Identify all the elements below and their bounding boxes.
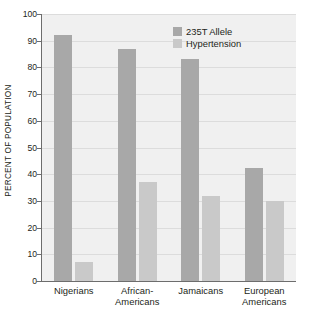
y-tick-label: 40 [27, 170, 37, 179]
x-category-label-line: European [242, 285, 286, 296]
x-category-label: EuropeanAmericans [242, 285, 286, 307]
y-tick-mark [37, 94, 42, 95]
gridline [42, 14, 296, 15]
gridline [42, 121, 296, 122]
legend-swatch-icon [173, 39, 182, 48]
y-tick-mark [37, 148, 42, 149]
bar [245, 168, 263, 281]
x-category-label: African-Americans [115, 285, 159, 307]
bar [75, 262, 93, 281]
y-tick-label: 60 [27, 117, 37, 126]
gridline [42, 148, 296, 149]
y-tick-mark [37, 14, 42, 15]
y-tick-mark [37, 254, 42, 255]
bar [181, 59, 199, 281]
y-tick-mark [37, 281, 42, 282]
bar [266, 201, 284, 281]
gridline [42, 67, 296, 68]
y-tick-label: 90 [27, 36, 37, 45]
bar [202, 196, 220, 281]
legend-item: 235T Allele [173, 27, 241, 37]
legend-item: Hypertension [173, 39, 241, 49]
y-tick-mark [37, 121, 42, 122]
y-tick-mark [37, 201, 42, 202]
x-axis-category-labels: NigeriansAfrican-AmericansJamaicansEurop… [42, 285, 296, 317]
y-tick-mark [37, 41, 42, 42]
y-tick-label: 80 [27, 63, 37, 72]
x-category-label-line: Jamaicans [178, 285, 223, 296]
chart-legend: 235T AlleleHypertension [173, 27, 241, 49]
gridline [42, 41, 296, 42]
x-category-label: Nigerians [54, 285, 94, 296]
legend-label: 235T Allele [186, 27, 232, 37]
y-tick-label: 100 [23, 10, 37, 19]
y-tick-label: 70 [27, 90, 37, 99]
x-category-label: Jamaicans [178, 285, 223, 296]
y-tick-label: 50 [27, 143, 37, 152]
bar [54, 35, 72, 281]
y-tick-label: 10 [27, 250, 37, 259]
y-tick-label: 30 [27, 197, 37, 206]
y-tick-mark [37, 67, 42, 68]
y-tick-mark [37, 174, 42, 175]
y-axis-title-text: PERCENT OF POPULATION [4, 84, 13, 196]
bar [139, 182, 157, 281]
plot-area [42, 14, 296, 281]
legend-swatch-icon [173, 27, 182, 36]
x-category-label-line: Americans [242, 296, 286, 307]
x-category-label-line: African- [115, 285, 159, 296]
x-category-label-line: Americans [115, 296, 159, 307]
x-axis-line [36, 281, 296, 282]
x-category-label-line: Nigerians [54, 285, 94, 296]
gridline [42, 94, 296, 95]
legend-label: Hypertension [186, 39, 241, 49]
bar [118, 49, 136, 281]
y-axis-title: PERCENT OF POPULATION [0, 0, 16, 281]
bar-chart-figure: PERCENT OF POPULATION 010203040506070809… [0, 0, 309, 317]
y-tick-mark [37, 228, 42, 229]
y-tick-label: 20 [27, 223, 37, 232]
